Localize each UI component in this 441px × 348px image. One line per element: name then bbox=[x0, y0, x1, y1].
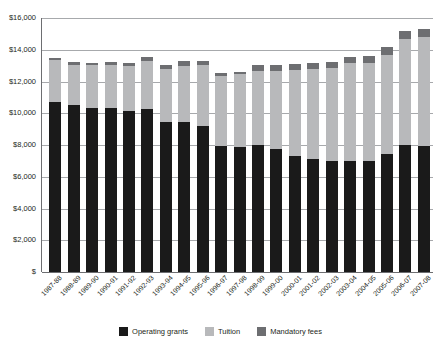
bar-2001-02 bbox=[307, 63, 319, 272]
bar-segment-tuition bbox=[160, 69, 172, 122]
bar-1993-94 bbox=[160, 65, 172, 272]
bar-segment-operating-grants bbox=[197, 126, 209, 272]
y-axis-tick-label: $6,000 bbox=[0, 173, 36, 181]
bar-2006-07 bbox=[399, 31, 411, 272]
y-axis-tick-label: $10,000 bbox=[0, 109, 36, 117]
bar-segment-tuition bbox=[289, 70, 301, 156]
bar-segment-tuition bbox=[399, 39, 411, 145]
x-axis: 1987-881988-891989-901990-911991-921992-… bbox=[41, 274, 432, 322]
bar-1988-89 bbox=[68, 62, 80, 272]
chart-legend: Operating grantsTuitionMandatory fees bbox=[0, 327, 441, 336]
bar-1989-90 bbox=[86, 63, 98, 272]
bar-segment-operating-grants bbox=[49, 102, 61, 272]
bar-segment-mandatory-fees bbox=[418, 29, 430, 37]
y-axis-tick-label: $2,000 bbox=[0, 236, 36, 244]
bar-1997-98 bbox=[234, 72, 246, 272]
bar-segment-operating-grants bbox=[178, 122, 190, 272]
bar-segment-tuition bbox=[141, 61, 153, 109]
bar-segment-tuition bbox=[49, 60, 61, 103]
bar-segment-tuition bbox=[123, 66, 135, 110]
bar-segment-tuition bbox=[252, 71, 264, 145]
bar-1991-92 bbox=[123, 63, 135, 272]
bar-segment-tuition bbox=[326, 68, 338, 161]
bar-segment-tuition bbox=[215, 76, 227, 146]
y-axis-tick-label: $ bbox=[0, 268, 36, 276]
bar-segment-tuition bbox=[234, 74, 246, 147]
bar-segment-tuition bbox=[381, 55, 393, 154]
chart-figure: $16,000$14,000$12,000$10,000$8,000$6,000… bbox=[0, 0, 441, 348]
bar-segment-operating-grants bbox=[344, 161, 356, 272]
bar-segment-operating-grants bbox=[418, 146, 430, 272]
y-axis-tick-label: $14,000 bbox=[0, 46, 36, 54]
y-axis-tick-label: $12,000 bbox=[0, 78, 36, 86]
bar-segment-mandatory-fees bbox=[381, 47, 393, 55]
legend-item-tuition: Tuition bbox=[205, 327, 240, 336]
legend-swatch-icon bbox=[119, 327, 128, 336]
bar-segment-operating-grants bbox=[399, 145, 411, 272]
bar-segment-tuition bbox=[197, 65, 209, 126]
bar-segment-operating-grants bbox=[160, 122, 172, 272]
bar-1992-93 bbox=[141, 57, 153, 272]
bar-segment-tuition bbox=[363, 63, 375, 161]
legend-label: Operating grants bbox=[132, 327, 188, 336]
gridline bbox=[42, 18, 433, 19]
bar-2004-05 bbox=[363, 56, 375, 272]
legend-swatch-icon bbox=[205, 327, 214, 336]
bar-segment-operating-grants bbox=[381, 154, 393, 272]
bar-segment-tuition bbox=[68, 65, 80, 105]
bar-2003-04 bbox=[344, 57, 356, 272]
legend-label: Mandatory fees bbox=[270, 327, 322, 336]
bar-segment-operating-grants bbox=[289, 156, 301, 272]
gridline bbox=[42, 272, 433, 273]
bar-segment-operating-grants bbox=[86, 108, 98, 272]
legend-item-mandatory-fees: Mandatory fees bbox=[257, 327, 322, 336]
legend-label: Tuition bbox=[218, 327, 240, 336]
bar-segment-tuition bbox=[418, 37, 430, 146]
bar-1996-97 bbox=[215, 73, 227, 272]
bar-segment-operating-grants bbox=[307, 159, 319, 273]
bar-segment-operating-grants bbox=[68, 105, 80, 272]
bar-1987-88 bbox=[49, 58, 61, 272]
plot-area bbox=[41, 18, 433, 272]
bar-segment-tuition bbox=[178, 66, 190, 122]
bar-segment-operating-grants bbox=[105, 108, 117, 272]
bar-segment-mandatory-fees bbox=[399, 31, 411, 39]
bar-segment-operating-grants bbox=[363, 161, 375, 272]
y-axis-tick-label: $4,000 bbox=[0, 205, 36, 213]
bar-segment-operating-grants bbox=[215, 146, 227, 272]
bar-1995-96 bbox=[197, 61, 209, 272]
bar-segment-tuition bbox=[86, 65, 98, 107]
bar-segment-tuition bbox=[307, 69, 319, 158]
bar-2002-03 bbox=[326, 62, 338, 272]
bar-segment-tuition bbox=[344, 63, 356, 161]
bar-1998-99 bbox=[252, 65, 264, 272]
bar-segment-mandatory-fees bbox=[363, 56, 375, 63]
legend-item-operating-grants: Operating grants bbox=[119, 327, 188, 336]
legend-swatch-icon bbox=[257, 327, 266, 336]
bar-segment-operating-grants bbox=[234, 147, 246, 272]
bar-segment-operating-grants bbox=[123, 111, 135, 272]
bar-2005-06 bbox=[381, 47, 393, 272]
bar-segment-tuition bbox=[270, 71, 282, 149]
bar-segment-operating-grants bbox=[141, 109, 153, 272]
bar-segment-tuition bbox=[105, 65, 117, 108]
bar-segment-operating-grants bbox=[252, 145, 264, 272]
y-axis-tick-label: $8,000 bbox=[0, 141, 36, 149]
bar-segment-mandatory-fees bbox=[270, 65, 282, 72]
bar-2007-08 bbox=[418, 29, 430, 272]
bar-segment-operating-grants bbox=[270, 149, 282, 272]
bar-2000-01 bbox=[289, 64, 301, 272]
bar-segment-operating-grants bbox=[326, 161, 338, 272]
y-axis-tick-label: $16,000 bbox=[0, 14, 36, 22]
bar-segment-mandatory-fees bbox=[289, 64, 301, 71]
gridline bbox=[42, 50, 433, 51]
bar-1994-95 bbox=[178, 61, 190, 272]
bar-1999-00 bbox=[270, 65, 282, 272]
bar-1990-91 bbox=[105, 62, 117, 272]
